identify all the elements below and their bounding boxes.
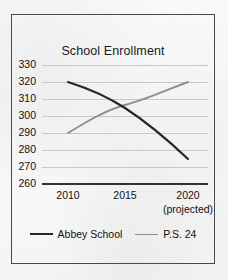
y-tick-label: 320	[6, 75, 36, 87]
y-tick-label: 300	[6, 109, 36, 121]
gridlines	[42, 65, 208, 167]
legend-entry-ps-24: P.S. 24	[135, 228, 196, 240]
series-line-ps24	[68, 82, 188, 133]
legend-line-icon	[30, 233, 53, 235]
y-tick-label: 280	[6, 143, 36, 155]
y-tick-label: 330	[6, 58, 36, 70]
x-tick-label: 2020	[165, 189, 211, 201]
legend-entry-abbey-school: Abbey School	[30, 228, 123, 240]
legend-label: P.S. 24	[163, 228, 196, 240]
x-tick-label: 2015	[102, 189, 148, 201]
legend-label: Abbey School	[58, 228, 123, 240]
y-tick-label: 260	[6, 177, 36, 189]
legend-line-icon	[135, 234, 158, 235]
y-tick-label: 270	[6, 160, 36, 172]
y-tick-label: 290	[6, 126, 36, 138]
chart-legend: Abbey School P.S. 24	[11, 224, 215, 244]
series-line-abbey	[68, 82, 188, 159]
x-tick-label: 2010	[45, 189, 91, 201]
x-axis-note: (projected)	[153, 203, 223, 215]
y-tick-label: 310	[6, 92, 36, 104]
